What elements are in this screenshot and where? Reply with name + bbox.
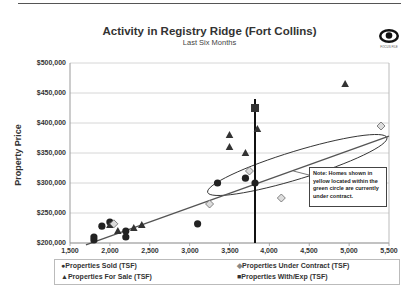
legend-item-under-contract: ◆Properties Under Contract (TSF)	[237, 262, 349, 270]
note-annotation: Note: Homes shown in yellow located with…	[309, 167, 387, 207]
scatter-plot	[0, 0, 419, 300]
legend-item-with-exp: ■Properties With/Exp (TSF)	[237, 273, 328, 280]
legend: ●Properties Sold (TSF) ▲Properties For S…	[54, 259, 400, 285]
triangle-marker-icon: ▲	[61, 273, 68, 280]
legend-item-for-sale: ▲Properties For Sale (TSF)	[61, 273, 152, 280]
legend-item-sold: ●Properties Sold (TSF)	[61, 262, 137, 269]
